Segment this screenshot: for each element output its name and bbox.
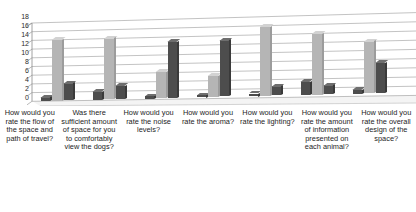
bar-front-face — [208, 76, 218, 97]
bar-front-face — [249, 94, 258, 97]
bar-front-face — [52, 40, 62, 101]
bar-g2-s1 — [93, 92, 102, 100]
bar-g6-s1 — [301, 82, 310, 95]
bars-layer — [0, 0, 416, 106]
bar-g7-s2 — [364, 41, 374, 93]
bar-side-face — [281, 85, 283, 95]
bar-front-face — [104, 38, 114, 99]
bar-g3-s1 — [145, 96, 154, 99]
bar-front-face — [353, 90, 362, 94]
x-axis-label-5: How would you rate the amount of informa… — [297, 109, 356, 212]
bar-g5-s2 — [260, 27, 270, 96]
bar-front-face — [312, 34, 322, 95]
x-axis-label-1: Was there sufficient amount of space for… — [59, 109, 118, 212]
x-axis-category-labels: How would you rate the flow of the space… — [0, 109, 416, 212]
bar-front-face — [376, 63, 385, 93]
bar-g1-s3 — [64, 83, 73, 100]
bar-g6-s2 — [312, 34, 322, 95]
bar-g4-s2 — [208, 76, 218, 97]
bar-side-face — [73, 82, 75, 100]
bar-g1-s2 — [52, 40, 62, 101]
bar-g3-s2 — [156, 72, 166, 98]
bar-front-face — [116, 86, 125, 99]
bar-g7-s3 — [376, 63, 385, 93]
bar-chart: 18 16 14 12 10 8 6 4 2 0 — [0, 0, 416, 212]
bar-g1-s1 — [41, 97, 50, 101]
bar-side-face — [385, 62, 387, 93]
bar-front-face — [168, 42, 177, 98]
bar-g5-s1 — [249, 94, 258, 97]
x-axis-label-3: How would you rate the aroma? — [178, 109, 237, 212]
bar-front-face — [145, 96, 154, 99]
x-axis-label-4: How would you rate the lighting? — [238, 109, 297, 212]
bar-g6-s3 — [324, 85, 333, 94]
bar-side-face — [125, 85, 127, 99]
bar-g4-s3 — [220, 40, 229, 96]
bar-front-face — [220, 40, 229, 96]
bar-g3-s3 — [168, 42, 177, 98]
plot-area: 18 16 14 12 10 8 6 4 2 0 — [0, 0, 416, 106]
bar-front-face — [41, 97, 50, 101]
bar-side-face — [333, 84, 335, 94]
bar-front-face — [93, 92, 102, 100]
bar-side-face — [177, 41, 179, 98]
bar-g4-s1 — [197, 95, 206, 98]
bar-front-face — [64, 83, 73, 100]
x-axis-label-0: How would you rate the flow of the space… — [0, 109, 59, 212]
x-axis-label-6: How would you rate the overall design of… — [357, 109, 416, 212]
bar-g2-s2 — [104, 38, 114, 99]
bar-g5-s3 — [272, 86, 281, 95]
bar-front-face — [301, 82, 310, 95]
bar-front-face — [324, 85, 333, 94]
bar-front-face — [260, 27, 270, 96]
bar-g7-s1 — [353, 90, 362, 94]
bar-side-face — [229, 39, 231, 96]
bar-g2-s3 — [116, 86, 125, 99]
x-axis-label-2: How would you rate the noise levels? — [119, 109, 178, 212]
bar-front-face — [272, 86, 281, 95]
bar-front-face — [156, 72, 166, 98]
bar-front-face — [364, 41, 374, 93]
